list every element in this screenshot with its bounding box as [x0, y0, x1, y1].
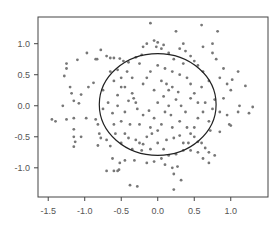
data-point	[116, 94, 119, 97]
data-point	[211, 42, 214, 45]
y-tick-label: 1.0	[17, 39, 30, 49]
data-point	[70, 92, 73, 95]
data-point	[72, 135, 75, 138]
data-point	[149, 126, 152, 129]
data-point	[189, 55, 192, 58]
data-point	[160, 47, 163, 50]
data-point	[74, 140, 77, 143]
data-point	[178, 73, 181, 76]
data-point	[182, 42, 185, 45]
data-point	[164, 111, 167, 114]
data-point	[149, 148, 152, 151]
data-point	[99, 137, 102, 140]
data-point	[138, 62, 141, 65]
data-point	[182, 142, 185, 145]
y-tick-label: -1.0	[14, 163, 30, 173]
data-point	[149, 22, 152, 25]
data-point	[142, 114, 145, 117]
data-point	[120, 76, 123, 79]
data-point	[78, 102, 81, 105]
data-point	[131, 92, 134, 95]
data-point	[237, 111, 240, 114]
data-point	[165, 83, 168, 86]
data-point	[124, 86, 127, 89]
data-point	[155, 45, 158, 48]
data-point	[162, 44, 165, 47]
data-point	[164, 163, 167, 166]
data-point	[187, 142, 190, 145]
data-point	[131, 76, 134, 79]
data-point	[98, 132, 101, 135]
data-point	[172, 173, 175, 176]
data-point	[105, 170, 108, 173]
data-point	[129, 184, 132, 187]
data-point	[114, 132, 117, 135]
data-point	[120, 86, 123, 89]
data-point	[165, 139, 168, 142]
data-point	[80, 135, 83, 138]
data-point	[178, 120, 181, 123]
data-point	[172, 137, 175, 140]
data-point	[193, 92, 196, 95]
data-point	[186, 126, 189, 129]
data-point	[124, 111, 127, 114]
data-point	[237, 70, 240, 73]
data-point	[124, 159, 127, 162]
data-point	[202, 157, 205, 160]
x-tick-label: 0.0	[151, 206, 164, 216]
data-point	[138, 123, 141, 126]
data-point	[178, 47, 181, 50]
data-point	[109, 57, 112, 60]
data-point	[113, 80, 116, 83]
data-point	[204, 147, 207, 150]
data-point	[251, 106, 254, 109]
data-point	[105, 55, 108, 58]
data-point	[149, 70, 152, 73]
data-point	[142, 45, 145, 48]
data-point	[244, 85, 247, 88]
data-point	[211, 52, 214, 55]
data-point	[109, 145, 112, 148]
data-point	[65, 67, 68, 70]
data-point	[172, 188, 175, 191]
data-point	[134, 101, 137, 104]
data-point	[86, 52, 89, 55]
data-point	[138, 142, 141, 145]
data-point	[197, 101, 200, 104]
data-point	[142, 83, 145, 86]
data-point	[61, 104, 64, 107]
data-point	[180, 179, 183, 182]
y-tick-label: 0.5	[17, 70, 30, 80]
data-point	[85, 117, 88, 120]
data-point	[215, 58, 218, 61]
data-point	[72, 117, 75, 120]
data-point	[107, 101, 110, 104]
data-point	[142, 143, 145, 146]
data-point	[180, 104, 183, 107]
data-point	[231, 78, 234, 81]
data-point	[87, 86, 90, 89]
data-point	[111, 112, 114, 115]
data-point	[162, 148, 165, 151]
data-point	[133, 159, 136, 162]
data-point	[204, 101, 207, 104]
data-point	[167, 104, 170, 107]
data-point	[97, 144, 100, 147]
data-point	[124, 132, 127, 135]
data-point	[156, 41, 159, 44]
data-point	[200, 86, 203, 89]
data-point	[72, 145, 75, 148]
scatter-chart: -1.5-1.0-0.50.00.51.0 -1.0-0.50.00.51.0	[0, 0, 280, 234]
data-point	[72, 128, 75, 131]
data-point	[193, 126, 196, 129]
data-point	[189, 83, 192, 86]
data-point	[145, 42, 148, 45]
data-point	[160, 123, 163, 126]
data-point	[127, 137, 130, 140]
data-point	[175, 30, 178, 33]
data-point	[176, 165, 179, 168]
data-point	[132, 97, 135, 100]
data-point	[69, 86, 72, 89]
data-point	[208, 120, 211, 123]
data-point	[229, 89, 232, 92]
